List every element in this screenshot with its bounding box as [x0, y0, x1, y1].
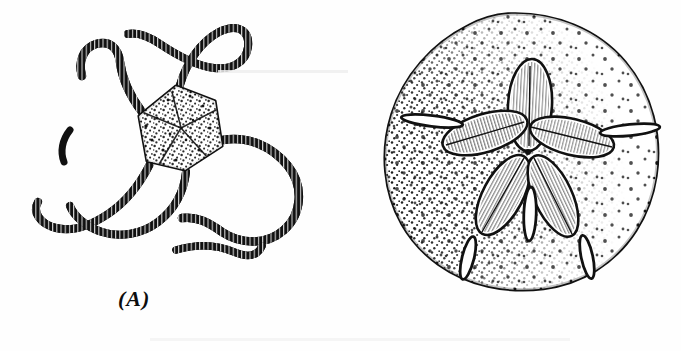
arm-lower-center	[70, 172, 186, 235]
panel-sand-dollar: (B)	[340, 0, 681, 351]
arm-top	[128, 28, 248, 85]
figure-root: (A)	[0, 0, 681, 351]
lunule-bottom-center	[523, 187, 537, 241]
brittle-star-illustration	[0, 0, 340, 351]
arm-upper-left	[81, 43, 142, 112]
panel-brittle-star: (A)	[0, 0, 340, 351]
arm-tip-upper-left	[62, 130, 70, 162]
arm-lower-left	[36, 164, 150, 229]
arm-tip-lower-right	[176, 246, 262, 256]
sand-dollar-illustration	[340, 0, 681, 351]
panel-a-caption: (A)	[118, 286, 150, 312]
